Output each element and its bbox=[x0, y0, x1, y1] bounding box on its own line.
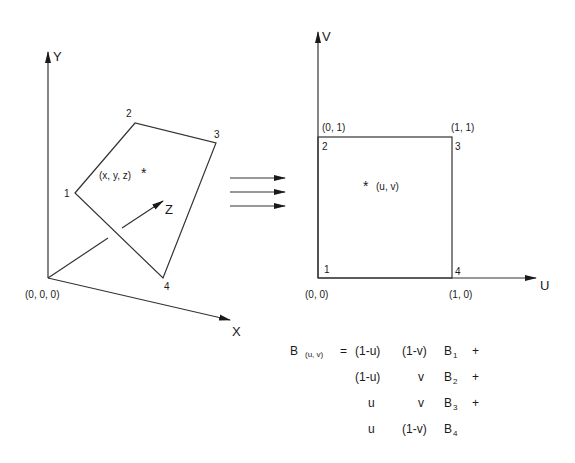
vertex-3-3d: 3 bbox=[214, 129, 220, 140]
equation-row-3-factor-u: u bbox=[368, 396, 375, 410]
quadrilateral-3d bbox=[75, 123, 216, 278]
equation-row-1-op: + bbox=[472, 344, 479, 358]
right-panel-parametric-space: V U (0, 1) (1, 1) (0, 0) (1, 0) 1 2 3 4 … bbox=[305, 29, 549, 300]
x-axis bbox=[48, 278, 230, 320]
equation-lhs: B bbox=[290, 344, 298, 358]
point-marker-xyz: * bbox=[141, 165, 147, 181]
equation-row-1-factor-u: (1-u) bbox=[355, 344, 380, 358]
vertex-1-uv: 1 bbox=[324, 264, 330, 275]
vertex-2-uv: 2 bbox=[322, 141, 328, 152]
unit-square bbox=[318, 137, 452, 278]
equation-row-2-sub: 2 bbox=[453, 377, 458, 386]
corner-label-1-0: (1, 0) bbox=[449, 289, 472, 300]
corner-label-1-1: (1, 1) bbox=[451, 122, 474, 133]
origin-label-3d: (0, 0, 0) bbox=[25, 289, 59, 300]
z-axis-segment-lower bbox=[48, 238, 108, 278]
equation-lhs-subscript: (u, v) bbox=[305, 350, 324, 359]
mapping-arrows bbox=[230, 178, 285, 206]
equation-row-1-sub: 1 bbox=[453, 351, 458, 360]
equation-row-4-term: B bbox=[444, 422, 452, 436]
equation-row-3-sub: 3 bbox=[453, 403, 458, 412]
v-axis-label: V bbox=[322, 29, 331, 44]
vertex-4-uv: 4 bbox=[455, 266, 461, 277]
corner-label-0-0: (0, 0) bbox=[305, 289, 328, 300]
point-marker-uv: * bbox=[363, 178, 369, 194]
x-axis-label: X bbox=[232, 324, 241, 339]
y-axis-label: Y bbox=[53, 49, 62, 64]
z-axis-label: Z bbox=[165, 202, 173, 217]
equation-row-4-sub: 4 bbox=[453, 429, 458, 438]
equation-row-3-factor-v: v bbox=[418, 396, 424, 410]
u-axis-label: U bbox=[540, 278, 549, 293]
point-label-uv: (u, v) bbox=[376, 181, 399, 192]
point-label-xyz: (x, y, z) bbox=[99, 170, 131, 181]
equation-equals: = bbox=[340, 344, 347, 358]
equation-row-1-factor-v: (1-v) bbox=[402, 344, 427, 358]
equation-row-2-term: B bbox=[444, 370, 452, 384]
equation-row-3-term: B bbox=[444, 396, 452, 410]
vertex-3-uv: 3 bbox=[455, 141, 461, 152]
equation-row-2-factor-u: (1-u) bbox=[355, 370, 380, 384]
equation-row-2-factor-v: v bbox=[418, 370, 424, 384]
equation-row-3-op: + bbox=[472, 396, 479, 410]
bilinear-mapping-diagram: Y X Z (0, 0, 0) 1 2 3 4 (x, y, z) * V U … bbox=[0, 0, 575, 463]
equation-row-2-op: + bbox=[472, 370, 479, 384]
vertex-2-3d: 2 bbox=[126, 108, 132, 119]
left-panel-3d-space: Y X Z (0, 0, 0) 1 2 3 4 (x, y, z) * bbox=[25, 49, 241, 339]
equation-row-1-term: B bbox=[444, 344, 452, 358]
vertex-1-3d: 1 bbox=[64, 188, 70, 199]
vertex-4-3d: 4 bbox=[164, 281, 170, 292]
bilinear-equation: B (u, v) = (1-u) (1-v) B 1 + (1-u) v B 2… bbox=[290, 344, 479, 438]
equation-row-4-factor-v: (1-v) bbox=[402, 422, 427, 436]
equation-row-4-factor-u: u bbox=[368, 422, 375, 436]
z-axis bbox=[122, 201, 163, 228]
corner-label-0-1: (0, 1) bbox=[322, 122, 345, 133]
